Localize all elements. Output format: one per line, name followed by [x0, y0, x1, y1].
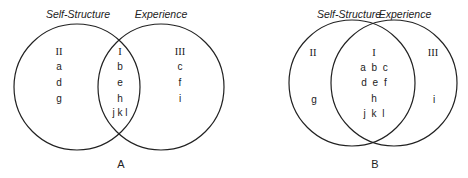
diagram-b-overlap-row: j k l	[364, 109, 385, 119]
diagram-b-left-item: g	[311, 95, 317, 105]
diagram-b-self-structure-title: Self-Structure	[317, 9, 381, 19]
diagram-b-experience-title: Experience	[379, 9, 432, 19]
diagram-a-right-item: c	[178, 62, 183, 72]
diagram-a-right-item: i	[179, 94, 181, 104]
diagram-a-region-ii-numeral: II	[56, 47, 63, 57]
diagram-a-left-item: a	[56, 62, 62, 72]
diagram-a-right-item: f	[179, 78, 182, 88]
diagram-a-region-i-numeral: I	[118, 47, 122, 57]
diagram-b-region-i-numeral: I	[372, 48, 376, 58]
diagram-b-experience-circle	[331, 20, 457, 146]
diagram-a-region-iii-numeral: III	[175, 47, 186, 57]
diagram-b-right-item: i	[433, 95, 435, 105]
diagram-a-self-structure-title: Self-Structure	[46, 9, 110, 19]
diagram-b-overlap-row: a b c	[360, 63, 388, 73]
diagram-b-overlap-row: d e f	[361, 78, 386, 88]
diagram-a-overlap-item: e	[117, 78, 123, 88]
diagram-a-experience-title: Experience	[135, 9, 188, 19]
diagram-b-self-structure-circle	[289, 20, 415, 146]
diagram-b-region-iii-numeral: III	[428, 48, 439, 58]
diagram-a-panel-label: A	[117, 159, 124, 169]
diagram-b-overlap-row: h	[371, 94, 377, 104]
diagram-a-overlap-item: h	[117, 94, 123, 104]
venn-circles	[0, 0, 468, 178]
diagram-b-panel-label: B	[371, 159, 378, 169]
diagram-a-left-item: d	[56, 78, 62, 88]
diagram-b-region-ii-numeral: II	[310, 48, 317, 58]
diagram-a-overlap-item: j k l	[113, 108, 128, 118]
diagram-a-left-item: g	[56, 94, 62, 104]
diagram-a-overlap-item: b	[117, 62, 123, 72]
